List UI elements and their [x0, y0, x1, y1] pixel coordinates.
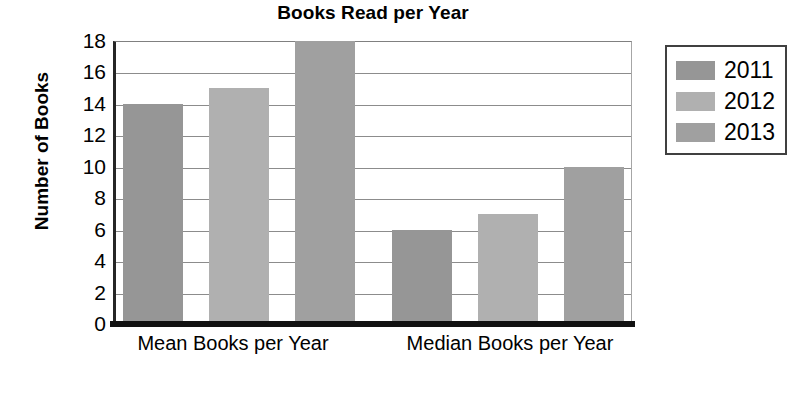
y-tick-label-4: 4: [46, 251, 106, 271]
legend-label-2012: 2012: [724, 90, 775, 113]
bar-2012-mean: [209, 88, 269, 324]
y-axis-tick-labels: 024681012141618: [46, 41, 106, 324]
bar-2013-median: [564, 167, 624, 324]
bar-2011-median: [392, 230, 452, 324]
gridline-4: [116, 262, 631, 263]
legend-item-2012[interactable]: 2012: [676, 87, 780, 115]
y-tick-label-14: 14: [46, 94, 106, 114]
legend-item-2013[interactable]: 2013: [676, 118, 780, 146]
legend: 201120122013: [665, 45, 787, 155]
x-axis-category-label-mean: Mean Books per Year: [108, 330, 358, 357]
gridline-14: [116, 105, 631, 106]
y-tick-label-16: 16: [46, 62, 106, 82]
bar-2011-mean: [123, 104, 183, 324]
y-tick-label-10: 10: [46, 157, 106, 177]
chart-screenshot: Books Read per Year Number of Books 0246…: [0, 0, 807, 413]
gridline-6: [116, 231, 631, 232]
legend-swatch-2013: [676, 123, 715, 142]
legend-item-2011[interactable]: 2011: [676, 56, 780, 84]
gridline-10: [116, 168, 631, 169]
legend-label-2011: 2011: [724, 59, 773, 82]
y-tick-label-8: 8: [46, 188, 106, 208]
legend-swatch-2012: [676, 92, 715, 111]
gridline-12: [116, 136, 631, 137]
x-axis-line: [110, 321, 635, 327]
plot-area: [113, 41, 632, 324]
gridline-16: [116, 73, 631, 74]
y-tick-label-6: 6: [46, 220, 106, 240]
legend-label-2013: 2013: [724, 121, 775, 144]
gridline-2: [116, 294, 631, 295]
x-axis-category-label-median: Median Books per Year: [385, 330, 635, 357]
gridline-8: [116, 199, 631, 200]
y-tick-label-12: 12: [46, 125, 106, 145]
chart-title: Books Read per Year: [113, 0, 633, 28]
bar-2013-mean: [295, 41, 355, 324]
y-tick-label-2: 2: [46, 283, 106, 303]
bar-2012-median: [478, 214, 538, 324]
legend-swatch-2011: [676, 61, 715, 80]
y-tick-label-18: 18: [46, 31, 106, 51]
y-tick-label-0: 0: [46, 314, 106, 334]
